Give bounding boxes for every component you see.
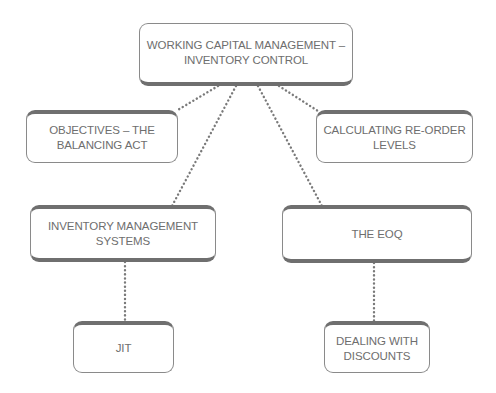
node-discounts-label: DEALING WITH DISCOUNTS xyxy=(336,334,418,364)
node-root: WORKING CAPITAL MANAGEMENT – INVENTORY C… xyxy=(139,23,353,86)
node-objectives: OBJECTIVES – THE BALANCING ACT xyxy=(26,110,178,163)
edge-root-ims xyxy=(172,86,236,206)
node-jit-label: JIT xyxy=(116,341,132,356)
edge-root-objectives xyxy=(176,86,218,111)
node-reorder: CALCULATING RE-ORDER LEVELS xyxy=(316,110,473,163)
edge-root-eoq xyxy=(258,86,322,206)
node-root-label: WORKING CAPITAL MANAGEMENT – INVENTORY C… xyxy=(147,38,345,68)
node-jit: JIT xyxy=(73,321,174,373)
node-ims-label: INVENTORY MANAGEMENT SYSTEMS xyxy=(48,219,198,249)
node-objectives-label: OBJECTIVES – THE BALANCING ACT xyxy=(49,123,155,153)
node-eoq: THE EOQ xyxy=(282,205,472,263)
node-eoq-label: THE EOQ xyxy=(351,227,402,242)
edge-root-reorder xyxy=(279,86,318,111)
node-reorder-label: CALCULATING RE-ORDER LEVELS xyxy=(323,123,465,153)
node-discounts: DEALING WITH DISCOUNTS xyxy=(324,321,430,373)
node-ims: INVENTORY MANAGEMENT SYSTEMS xyxy=(30,205,216,262)
